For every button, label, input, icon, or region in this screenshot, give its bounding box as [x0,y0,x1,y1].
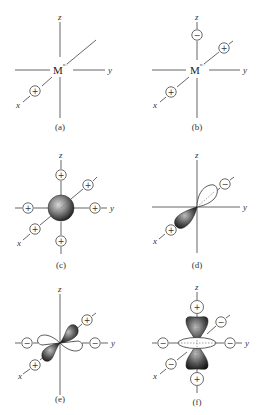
ligand-sign: + [58,237,65,246]
ligand-sign: − [218,318,225,327]
x-axis-front-end [160,369,166,374]
ligand-sign: − [168,360,175,369]
x-axis-back-end [230,177,234,180]
x-axis-front-end [159,234,165,239]
ligand-sign: + [92,204,99,213]
ligand-sign: − [222,180,229,189]
metal-charge: n+ [63,62,69,67]
ligand-sign: + [194,303,201,312]
y-label: y [242,65,247,75]
ligand-sign: + [221,44,228,53]
ligand-sign: + [32,225,39,234]
panel-f: + + − − − − z y x (f) [152,282,249,407]
caption-f: (f) [193,397,202,407]
ligand-sign: + [85,181,92,190]
x-label: x [152,100,157,110]
x-axis-front-end [23,234,30,240]
z-label: z [194,12,199,22]
d-orbital-lobe-dark-back [60,325,78,343]
caption-e: (e) [55,394,65,404]
p-orbital-lobe-positive [175,207,197,228]
metal-label: M [190,64,200,76]
x-axis-back [207,326,216,334]
z-label: z [194,282,199,292]
ligand-sign: + [84,316,91,325]
panel-b: − + + M n+ z y x (b) [152,12,247,132]
orbital-ligand-diagram: + M n+ z y x (a) − + + M n+ z y x (b) [0,0,263,415]
z-label: z [57,12,62,22]
metal-charge: n+ [200,62,206,67]
x-axis-back-end [92,313,96,316]
ligand-sign: + [58,171,65,180]
x-axis-back-end [229,41,233,44]
caption-d: (d) [192,260,203,270]
y-label: y [110,338,115,348]
x-axis-back-end [226,315,230,318]
x-axis-front [177,77,189,87]
d-orbital-lobe-dark-front [42,343,60,361]
caption-c: (c) [56,260,66,270]
x-axis-back [67,40,96,64]
x-axis-front [42,77,52,86]
ligand-sign: + [168,88,175,97]
caption-b: (b) [192,122,203,132]
panel-e: − − + + z y x (e) [15,284,115,404]
x-label: x [152,371,157,381]
z-label: z [194,150,199,160]
panel-a: + M n+ z y x (a) [15,12,112,132]
x-axis-back-end [93,177,97,181]
ligand-sign: − [160,339,167,348]
x-label: x [17,371,22,381]
y-label: y [242,202,247,212]
ligand-sign: − [92,339,99,348]
ligand-sign: + [25,204,32,213]
y-label: y [109,203,114,213]
ligand-sign: − [194,31,201,40]
x-label: x [16,238,21,248]
x-axis-front-end [23,369,30,374]
y-label: y [107,65,112,75]
x-axis-front-end [160,97,166,102]
ligand-sign: + [194,375,201,384]
panel-d: − + z y x (d) [152,150,247,270]
p-orbital-lobe-negative [197,185,217,207]
ligand-sign: − [24,339,31,348]
z-label: z [58,150,63,160]
x-label: x [15,100,20,110]
x-label: x [152,236,157,246]
x-axis-front [177,352,187,360]
ligand-sign: + [32,361,39,370]
ligand-sign: + [168,226,175,235]
x-axis-back [71,189,83,199]
x-axis-front-end [23,96,30,102]
panel-c: + + + + + + z y x (c) [15,150,114,270]
x-axis-back [204,52,219,64]
z-label: z [57,284,62,294]
ligand-sign: + [32,87,39,96]
caption-a: (a) [55,122,65,132]
x-axis-front [40,216,51,225]
y-label: y [244,338,249,348]
ligand-sign: − [227,339,234,348]
metal-label: M [53,64,63,76]
